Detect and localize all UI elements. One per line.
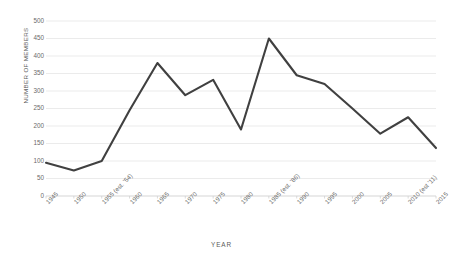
x-axis-title: YEAR — [0, 241, 443, 248]
gridlines — [46, 21, 436, 196]
members-series-line — [46, 39, 436, 171]
